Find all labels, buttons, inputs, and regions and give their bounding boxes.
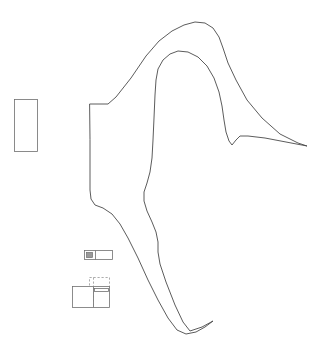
left-rectangle-shape[interactable] bbox=[15, 100, 38, 152]
detail-bar-swatch bbox=[87, 253, 93, 258]
detail-lower-block[interactable] bbox=[73, 287, 94, 308]
line-drawing-svg[interactable] bbox=[0, 0, 324, 362]
drawing-canvas[interactable]: Untitled Line Drawing bbox=[0, 0, 324, 362]
detail-inner-bar bbox=[95, 289, 109, 292]
detail-bar-group[interactable] bbox=[85, 251, 113, 260]
